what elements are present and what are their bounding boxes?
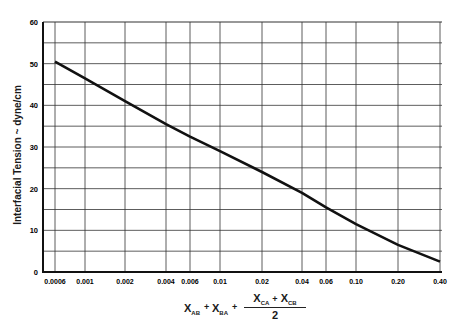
data-line <box>55 62 440 262</box>
plus-sign: + <box>232 302 237 312</box>
grid-lines <box>43 22 442 272</box>
fraction-bar <box>244 307 306 308</box>
y-tick-label: 60 <box>30 18 38 27</box>
x-tick-label: 0.001 <box>76 278 94 285</box>
x-tick-label: 0.004 <box>157 278 175 285</box>
x-tick-label: 0.20 <box>391 278 405 285</box>
x-tick-label: 0.04 <box>295 278 309 285</box>
x-tick-label: 0.10 <box>349 278 363 285</box>
y-axis-label-text: Interfacial Tension ~ dyne/cm <box>12 85 23 225</box>
fraction-denominator: 2 <box>244 309 306 321</box>
fraction-numerator: XCA + XCB <box>244 292 306 306</box>
x-tick-label: 0.01 <box>213 278 227 285</box>
x-tick-label: 0.002 <box>116 278 134 285</box>
x-tick-labels: 0.00060.0010.0020.0040.0060.010.020.040.… <box>44 278 447 285</box>
axes <box>42 22 442 273</box>
plus-sign: + <box>204 302 209 312</box>
x-tick-label: 0.02 <box>255 278 269 285</box>
x-tick-label: 0.0006 <box>44 278 66 285</box>
x-term-fraction: XCA + XCB 2 <box>244 292 306 321</box>
x-tick-label: 0.006 <box>181 278 199 285</box>
chart-plot: 0102030405060 0.00060.0010.0020.0040.006… <box>0 0 468 330</box>
x-tick-label: 0.40 <box>433 278 447 285</box>
x-term-ba: XBA <box>212 302 228 316</box>
y-tick-label: 0 <box>34 268 38 277</box>
y-axis-label: Interfacial Tension ~ dyne/cm <box>2 45 32 265</box>
x-tick-label: 0.06 <box>319 278 333 285</box>
x-term-ab: XAB <box>184 302 200 316</box>
